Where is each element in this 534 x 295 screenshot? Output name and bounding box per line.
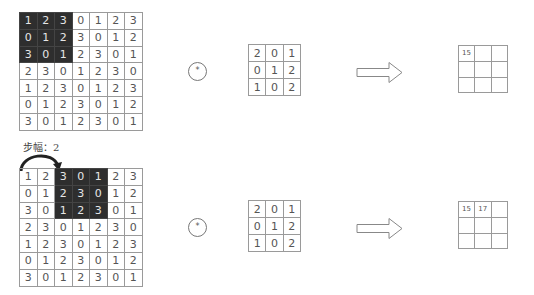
kernel-matrix-2: 2 0 1 0 1 2 1 0 2 [248, 200, 301, 252]
matrix-cell: 0 [107, 269, 125, 286]
matrix-cell: 1 [107, 29, 125, 46]
matrix-cell: 2 [283, 62, 300, 79]
operator-symbol: * [189, 66, 206, 75]
matrix-cell: 3 [90, 113, 108, 130]
matrix-row: 3 0 1 2 3 0 1 [20, 46, 143, 63]
matrix-cell: 0 [72, 80, 90, 97]
matrix-row: 3 0 1 2 3 0 1 [20, 202, 143, 219]
matrix-cell: 3 [55, 236, 73, 253]
matrix-cell [475, 233, 491, 249]
matrix-row: 3 0 1 2 3 0 1 [20, 269, 143, 286]
matrix-cell: 1 [20, 236, 38, 253]
matrix-row: 0 1 2 3 0 1 2 [20, 252, 143, 269]
matrix-row [459, 217, 508, 233]
matrix-cell: 1 [125, 46, 143, 63]
matrix-row: 1 2 3 0 1 2 3 [20, 13, 143, 30]
matrix-cell: 1 [90, 236, 108, 253]
matrix-cell: 0 [107, 202, 125, 219]
matrix-cell [475, 217, 491, 233]
matrix-cell: 1 [90, 169, 108, 186]
input-matrix-2: 1 2 3 0 1 2 3 0 1 2 3 0 1 2 3 0 1 2 3 0 … [19, 168, 143, 287]
matrix-cell: 3 [125, 169, 143, 186]
matrix-cell: 2 [125, 29, 143, 46]
matrix-cell: 3 [55, 13, 73, 30]
matrix-cell: 3 [90, 46, 108, 63]
matrix-cell: 2 [107, 169, 125, 186]
matrix-row: 0 1 2 3 0 1 2 [20, 29, 143, 46]
matrix-cell [491, 202, 507, 218]
matrix-cell: 0 [37, 113, 55, 130]
matrix-cell: 1 [249, 235, 266, 252]
matrix-cell: 0 [266, 45, 283, 62]
matrix-cell: 3 [72, 185, 90, 202]
matrix-cell [459, 77, 475, 93]
matrix-cell: 0 [266, 235, 283, 252]
matrix-cell [491, 46, 507, 62]
matrix-cell: 3 [20, 113, 38, 130]
matrix-cell: 0 [90, 185, 108, 202]
kernel-matrix-1-body: 2 0 1 0 1 2 1 0 2 [249, 45, 301, 96]
kernel-matrix-2-body: 2 0 1 0 1 2 1 0 2 [249, 201, 301, 252]
convolution-operator-icon: * [188, 218, 207, 237]
kernel-matrix-1: 2 0 1 0 1 2 1 0 2 [248, 44, 301, 96]
matrix-cell: 1 [37, 252, 55, 269]
matrix-cell: 1 [90, 80, 108, 97]
input-matrix-1: 1 2 3 0 1 2 3 0 1 2 3 0 1 2 3 0 1 2 3 0 … [19, 12, 143, 131]
matrix-cell: 0 [266, 79, 283, 96]
matrix-cell: 0 [55, 63, 73, 80]
matrix-cell: 2 [72, 202, 90, 219]
matrix-cell: 3 [125, 80, 143, 97]
matrix-row: 1 0 2 [249, 235, 301, 252]
matrix-cell [491, 233, 507, 249]
matrix-cell: 2 [90, 63, 108, 80]
matrix-cell: 2 [125, 96, 143, 113]
matrix-row: 1 2 3 0 1 2 3 [20, 169, 143, 186]
matrix-cell: 1 [107, 252, 125, 269]
matrix-cell: 1 [249, 79, 266, 96]
matrix-row: 1 0 2 [249, 79, 301, 96]
matrix-cell: 1 [20, 80, 38, 97]
matrix-cell: 1 [90, 13, 108, 30]
matrix-row: 0 1 2 3 0 1 2 [20, 185, 143, 202]
matrix-row: 0 1 2 3 0 1 2 [20, 96, 143, 113]
matrix-cell: 2 [125, 185, 143, 202]
matrix-cell: 3 [72, 96, 90, 113]
matrix-cell: 1 [125, 113, 143, 130]
matrix-cell: 3 [72, 29, 90, 46]
matrix-cell: 2 [20, 63, 38, 80]
output-matrix-1-body: 15 [459, 46, 508, 93]
matrix-cell: 3 [107, 219, 125, 236]
matrix-cell: 3 [20, 46, 38, 63]
matrix-cell: 0 [20, 252, 38, 269]
matrix-cell [459, 233, 475, 249]
right-arrow-icon [356, 217, 404, 240]
matrix-cell: 2 [55, 185, 73, 202]
matrix-row: 2 3 0 1 2 3 0 [20, 219, 143, 236]
matrix-row [459, 77, 508, 93]
matrix-cell: 1 [37, 29, 55, 46]
input-matrix-2-body: 1 2 3 0 1 2 3 0 1 2 3 0 1 2 3 0 1 2 3 0 … [20, 169, 143, 287]
matrix-cell: 0 [20, 29, 38, 46]
matrix-cell: 1 [283, 45, 300, 62]
matrix-cell: 3 [20, 202, 38, 219]
matrix-cell: 1 [107, 185, 125, 202]
matrix-cell: 1 [37, 96, 55, 113]
matrix-cell: 1 [37, 185, 55, 202]
matrix-cell: 0 [37, 202, 55, 219]
matrix-cell: 0 [90, 29, 108, 46]
matrix-cell: 2 [283, 79, 300, 96]
matrix-cell [475, 77, 491, 93]
output-matrix-2-body: 15 17 [459, 202, 508, 249]
matrix-cell: 2 [20, 219, 38, 236]
matrix-cell: 0 [37, 269, 55, 286]
matrix-cell: 1 [125, 269, 143, 286]
matrix-cell: 1 [72, 219, 90, 236]
matrix-cell: 0 [72, 169, 90, 186]
matrix-cell [475, 61, 491, 77]
matrix-row [459, 61, 508, 77]
matrix-cell: 1 [55, 269, 73, 286]
input-matrix-1-body: 1 2 3 0 1 2 3 0 1 2 3 0 1 2 3 0 1 2 3 0 … [20, 13, 143, 131]
matrix-cell: 2 [249, 45, 266, 62]
matrix-cell [491, 217, 507, 233]
matrix-cell: 2 [37, 169, 55, 186]
